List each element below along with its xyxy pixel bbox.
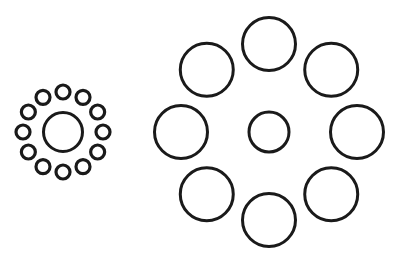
left-surround-circle	[76, 160, 90, 174]
left-surround-circle	[56, 85, 70, 99]
right-surround-circle	[305, 168, 358, 221]
left-surround-circle	[76, 90, 90, 104]
left-surround-circle	[36, 160, 50, 174]
right-surround-circle	[331, 106, 384, 159]
left-surround-circle	[91, 105, 105, 119]
right-center-circle	[249, 112, 289, 152]
left-circle-group-small-surround	[16, 85, 110, 179]
left-surround-circle	[36, 90, 50, 104]
right-surround-circle	[180, 43, 233, 96]
right-surround-circle	[180, 168, 233, 221]
ebbinghaus-diagram	[0, 0, 398, 260]
left-surround-circle	[21, 145, 35, 159]
left-surround-circle	[96, 125, 110, 139]
right-surround-circle	[243, 194, 296, 247]
left-center-circle	[44, 113, 83, 152]
right-circle-group-large-surround	[155, 18, 384, 247]
left-surround-circle	[21, 105, 35, 119]
right-surround-circle	[243, 18, 296, 71]
left-surround-circle	[91, 145, 105, 159]
right-surround-circle	[305, 43, 358, 96]
left-surround-circle	[56, 165, 70, 179]
right-surround-circle	[155, 106, 208, 159]
left-surround-circle	[16, 125, 30, 139]
